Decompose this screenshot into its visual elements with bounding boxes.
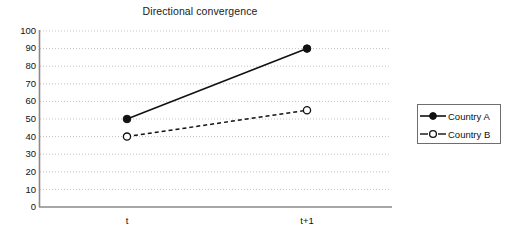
data-point-country-b-t	[123, 133, 130, 140]
legend-label-country-a: Country A	[448, 111, 490, 122]
legend-label-country-b: Country B	[448, 129, 490, 140]
legend-item-country-a: Country A	[418, 107, 502, 125]
data-point-country-a-t1	[303, 45, 311, 53]
x-tick-label-t: t	[126, 215, 129, 226]
legend-marker-solid-filled-circle	[418, 109, 448, 123]
gridlines	[40, 31, 390, 189]
legend-marker-dashed-hollow-circle	[418, 127, 448, 141]
x-tick-label-t-plus-1: t+1	[300, 215, 313, 226]
data-point-country-a-t	[123, 115, 131, 123]
legend-item-country-b: Country B	[418, 125, 502, 143]
series-line-country-b	[127, 110, 307, 136]
chart-legend: Country A Country B	[417, 104, 501, 144]
data-point-country-b-t1	[303, 107, 310, 114]
chart-container: Directional convergence 100 90 80 70 60 …	[0, 0, 511, 241]
